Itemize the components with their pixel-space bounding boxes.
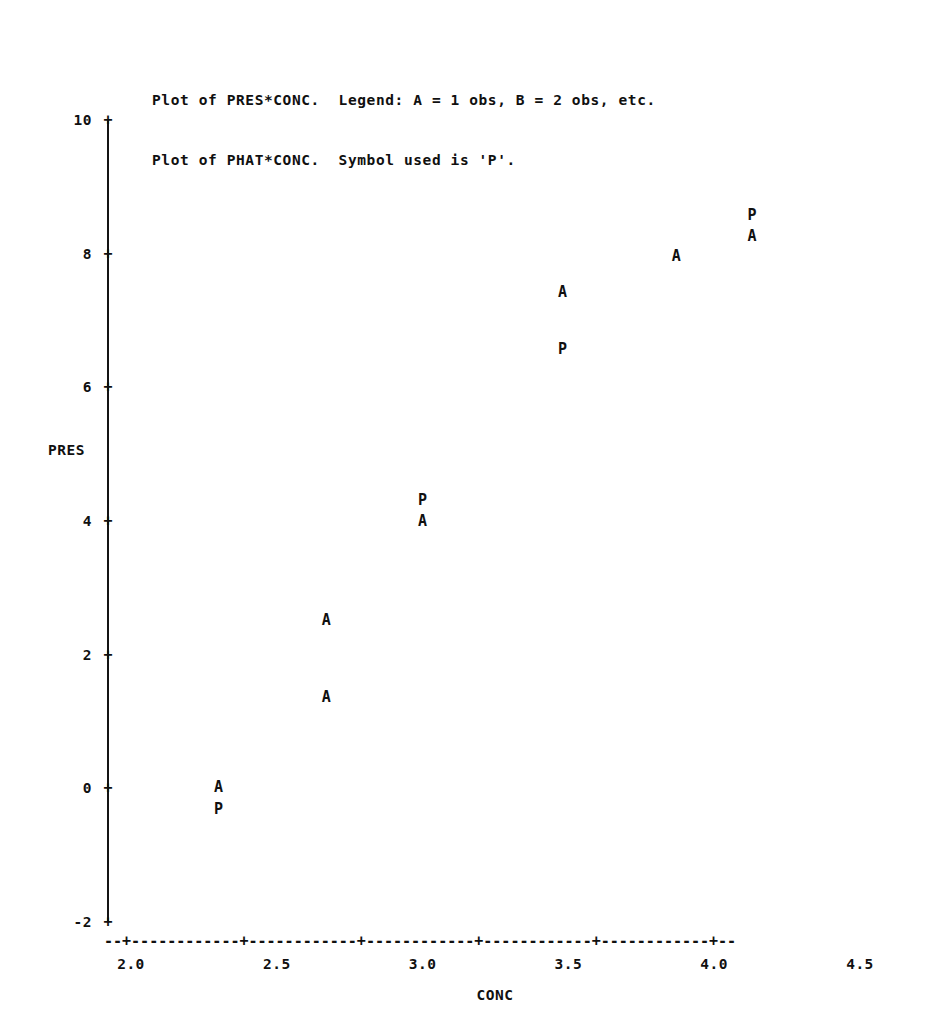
y-tick-label: 6: [83, 380, 92, 395]
y-tick-label: -2: [74, 915, 92, 930]
y-tick-label: 2: [83, 647, 92, 662]
x-tick-label: 2.0: [117, 957, 145, 972]
x-tick-label: 4.5: [846, 957, 874, 972]
plot-symbol-a: A: [748, 228, 757, 243]
x-axis-line: --+------------+------------+-----------…: [104, 934, 894, 949]
plot-symbol-p: P: [418, 493, 427, 508]
plot-symbol-p: P: [748, 207, 757, 222]
y-tick-mark: +: [103, 113, 112, 128]
plot-title-line-2: Plot of PHAT*CONC. Symbol used is 'P'.: [152, 150, 656, 170]
x-tick-label: 4.0: [700, 957, 728, 972]
x-tick-label: 3.0: [409, 957, 437, 972]
x-tick-label: 2.5: [263, 957, 291, 972]
y-tick-mark: +: [103, 915, 112, 930]
y-tick-mark: +: [103, 380, 112, 395]
y-tick-label: 8: [83, 246, 92, 261]
x-axis-title: CONC: [477, 988, 514, 1003]
y-tick-mark: +: [103, 647, 112, 662]
y-tick-mark: +: [103, 781, 112, 796]
plot-title-line-1: Plot of PRES*CONC. Legend: A = 1 obs, B …: [152, 90, 656, 110]
x-tick-label: 3.5: [555, 957, 583, 972]
y-tick-label: 0: [83, 781, 92, 796]
y-tick-mark: +: [103, 246, 112, 261]
plot-symbol-a: A: [322, 612, 331, 627]
plot-title-block: Plot of PRES*CONC. Legend: A = 1 obs, B …: [152, 50, 656, 210]
plot-symbol-a: A: [322, 689, 331, 704]
plot-symbol-p: P: [214, 802, 223, 817]
plot-symbol-a: A: [558, 284, 567, 299]
plot-symbol-a: A: [214, 779, 223, 794]
plot-symbol-a: A: [418, 514, 427, 529]
y-tick-label: 10: [74, 113, 92, 128]
plot-symbol-p: P: [558, 341, 567, 356]
sas-plot-page: Plot of PRES*CONC. Legend: A = 1 obs, B …: [0, 0, 927, 1016]
y-axis-title: PRES: [48, 443, 85, 458]
y-tick-label: 4: [83, 514, 92, 529]
plot-symbol-a: A: [672, 249, 681, 264]
y-tick-mark: +: [103, 514, 112, 529]
